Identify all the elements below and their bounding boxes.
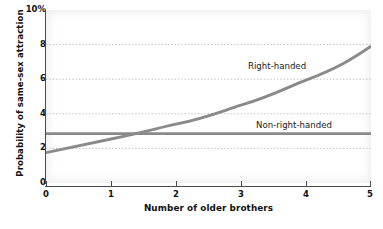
x-tick-label-text: 4	[296, 189, 316, 199]
y-tick-label-text: 10%	[26, 4, 46, 14]
x-tick-label-text: 5	[360, 189, 380, 199]
x-tick-mark	[370, 181, 371, 186]
x-tick-mark	[176, 181, 177, 186]
x-tick-mark	[306, 181, 307, 186]
x-axis-title: Number of older brothers	[46, 203, 371, 213]
x-tick-label-text: 1	[101, 189, 121, 199]
plot-svg	[46, 10, 371, 183]
series-label-right-handed: Right-handed	[248, 61, 306, 71]
plot-area	[46, 10, 371, 183]
y-axis-line	[45, 10, 46, 184]
x-tick-label-text: 3	[231, 189, 251, 199]
x-tick-label-text: 2	[166, 189, 186, 199]
x-axis-line	[45, 186, 371, 187]
chart-figure: Probability of same-sex attraction 10% 8…	[0, 0, 383, 229]
y-axis-title: Probability of same-sex attraction	[15, 3, 25, 183]
series-label-non-right-handed: Non-right-handed	[256, 120, 332, 130]
x-tick-mark	[111, 181, 112, 186]
x-tick-label-text: 0	[36, 189, 56, 199]
x-tick-mark	[46, 181, 47, 186]
series-line-right-handed	[46, 46, 371, 152]
x-tick-mark	[241, 181, 242, 186]
